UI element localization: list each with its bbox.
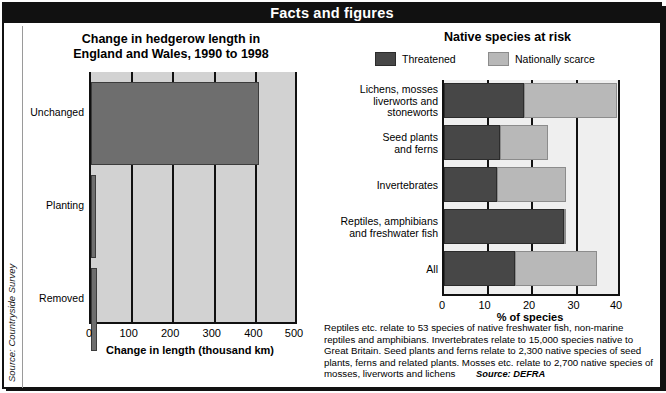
left-tick-500: 500 <box>280 327 308 339</box>
right-bar-seedplants-scarce <box>500 125 549 160</box>
left-bar-unchanged <box>91 82 259 165</box>
right-bar-lichens-scarce <box>524 83 617 118</box>
legend-swatch-nationally-scarce <box>488 52 509 66</box>
right-chart-legend: Threatened Nationally scarce <box>375 51 635 67</box>
right-gridline-40 <box>618 80 620 294</box>
footnote-source: Source: DEFRA <box>476 369 545 379</box>
right-bar-lichens-threatened <box>444 83 524 118</box>
right-bar-all-scarce <box>515 251 597 286</box>
right-bar-reptiles-scarce <box>564 209 566 244</box>
right-bar-invertebrates-threatened <box>444 167 497 202</box>
left-cat-removed: Removed <box>10 293 84 305</box>
right-chart-plot-area <box>442 80 620 296</box>
left-gridline-500 <box>295 72 297 322</box>
left-chart-plot-area <box>89 72 297 324</box>
left-cat-unchanged: Unchanged <box>10 107 84 119</box>
right-tick-0: 0 <box>429 299 455 311</box>
left-chart-title-line1: Change in hedgerow length in <box>26 32 316 47</box>
right-chart-title: Native species at risk <box>400 30 615 45</box>
figure-page: Facts and figures Source: Countryside Su… <box>0 0 666 393</box>
right-cat-reptiles-line2: and freshwater fish <box>316 228 438 240</box>
left-tick-300: 300 <box>198 327 226 339</box>
right-tick-20: 20 <box>516 299 542 311</box>
banner-title: Facts and figures <box>4 4 660 23</box>
right-bar-reptiles-threatened <box>444 209 564 244</box>
left-tick-0: 0 <box>75 327 103 339</box>
left-tick-200: 200 <box>156 327 184 339</box>
right-bar-seedplants-threatened <box>444 125 500 160</box>
left-cat-planting: Planting <box>10 200 84 212</box>
right-cat-seedplants-line1: Seed plants <box>330 132 438 144</box>
left-tick-400: 400 <box>239 327 267 339</box>
legend-label-threatened: Threatened <box>402 51 456 67</box>
right-cat-seedplants-line2: and ferns <box>330 144 438 156</box>
source-countryside-survey: Source: Countryside Survey <box>6 232 20 382</box>
legend-swatch-threatened <box>375 52 396 66</box>
legend-label-nationally-scarce: Nationally scarce <box>515 51 595 67</box>
left-chart-title-line2: England and Wales, 1990 to 1998 <box>26 47 316 62</box>
left-bar-planting <box>91 175 96 258</box>
right-cat-invertebrates: Invertebrates <box>330 180 438 192</box>
left-tick-100: 100 <box>115 327 143 339</box>
left-x-axis-label: Change in length (thousand km) <box>50 344 330 356</box>
right-tick-40: 40 <box>603 299 629 311</box>
right-bar-all-threatened <box>444 251 515 286</box>
right-cat-all: All <box>330 264 438 276</box>
right-cat-lichens-line3: stoneworts <box>330 107 438 119</box>
banner-bar: Facts and figures <box>4 4 660 23</box>
right-tick-10: 10 <box>472 299 498 311</box>
right-cat-lichens-line1: Lichens, mosses <box>330 84 438 96</box>
right-tick-30: 30 <box>561 299 587 311</box>
right-cat-reptiles-line1: Reptiles, amphibians <box>316 216 438 228</box>
footnote-block: Reptiles etc. relate to 53 species of na… <box>324 322 656 381</box>
right-bar-invertebrates-scarce <box>497 167 566 202</box>
